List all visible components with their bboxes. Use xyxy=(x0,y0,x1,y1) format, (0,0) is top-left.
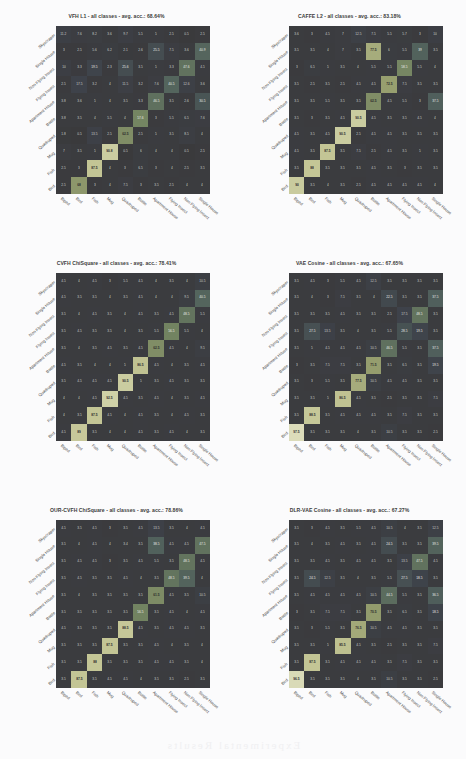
matrix-cell: 92.5 xyxy=(102,391,117,408)
y-axis-labels: SkyscraperSingle HouseNon Flying InsectF… xyxy=(0,520,56,688)
matrix-cell: 4.5 xyxy=(195,357,210,374)
matrix-cell-value: 3.5 xyxy=(77,364,81,367)
matrix-cell-value: 4.5 xyxy=(61,280,65,283)
matrix-cell: 4 xyxy=(133,570,148,587)
matrix-cell: 3.5 xyxy=(397,537,412,554)
matrix-cell: 4.5 xyxy=(56,290,71,307)
matrix-cell: 3.5 xyxy=(366,570,381,587)
matrix-cell: 4 xyxy=(102,357,117,374)
matrix-cell: 3.5 xyxy=(412,340,427,357)
matrix-cell-value: 3.5 xyxy=(418,414,422,417)
matrix-cell-value: 7.5 xyxy=(433,644,437,647)
matrix-cell: 3.5 xyxy=(428,144,443,161)
matrix-cell: 2.5 xyxy=(133,127,148,144)
matrix-cell: 3.5 xyxy=(71,604,86,621)
matrix-cell-value: 3 xyxy=(109,280,111,283)
matrix-cell: 86.5 xyxy=(133,357,148,374)
matrix-cell-value: 3.5 xyxy=(154,313,158,316)
confusion-matrix: 3.534.53.55.54.510.543.512.53.543.54.53.… xyxy=(289,520,443,688)
matrix-cell-value: 46.5 xyxy=(386,347,392,350)
matrix-cell-value: 5 xyxy=(155,33,157,36)
matrix-cell-value: 3.5 xyxy=(310,364,314,367)
matrix-cell: 3.5 xyxy=(335,554,350,571)
matrix-cell: 3.5 xyxy=(428,160,443,177)
matrix-cell: 2.5 xyxy=(164,26,179,43)
matrix-cell: 3.5 xyxy=(381,110,396,127)
matrix-cell-value: 3.5 xyxy=(77,527,81,530)
matrix-cell-value: 18.5 xyxy=(417,577,423,580)
matrix-cell: 3.5 xyxy=(412,537,427,554)
matrix-cell-value: 3.6 xyxy=(77,100,81,103)
matrix-cell-value: 7.5 xyxy=(341,611,345,614)
matrix-cell: 5.5 xyxy=(381,323,396,340)
matrix-cell-value: 3.5 xyxy=(77,628,81,631)
matrix-cell-value: 86.5 xyxy=(340,397,346,400)
matrix-cell-value: 4.5 xyxy=(185,414,189,417)
matrix-cell: 4.5 xyxy=(366,76,381,93)
matrix-cell: 87.5 xyxy=(320,144,335,161)
matrix-cell-value: 3.5 xyxy=(92,330,96,333)
matrix-cell-value: 5.5 xyxy=(387,66,391,69)
matrix-cell: 2.5 xyxy=(179,160,194,177)
matrix-cell: 7.5 xyxy=(397,654,412,671)
matrix-cell-value: 3.5 xyxy=(138,661,142,664)
matrix-cell-value: 3 xyxy=(311,628,313,631)
matrix-cell-value: 7.5 xyxy=(325,364,329,367)
matrix-cell-value: 4.5 xyxy=(200,364,204,367)
matrix-cell-value: 4.5 xyxy=(200,66,204,69)
matrix-cell: 3.5 xyxy=(164,671,179,688)
matrix-cell: 4.5 xyxy=(148,391,163,408)
matrix-cell-value: 30.5 xyxy=(199,100,205,103)
matrix-cell: 90.8 xyxy=(102,144,117,161)
matrix-cell: 4 xyxy=(71,273,86,290)
matrix-cell: 7.5 xyxy=(366,26,381,43)
matrix-cell-value: 3.5 xyxy=(108,594,112,597)
matrix-cell: 4.5 xyxy=(56,273,71,290)
matrix-cell: 10.5 xyxy=(366,621,381,638)
matrix-cell-value: 3.5 xyxy=(310,184,314,187)
matrix-cell: 4 xyxy=(164,290,179,307)
matrix-cell: 5.5 xyxy=(397,43,412,60)
matrix-cell: 2.5 xyxy=(381,307,396,324)
matrix-cell-value: 3.5 xyxy=(154,414,158,417)
matrix-cell-value: 7.5 xyxy=(341,297,345,300)
matrix-cell-value: 3.6 xyxy=(108,33,112,36)
matrix-cell-value: 4.5 xyxy=(387,381,391,384)
matrix-cell: 2.5 xyxy=(195,26,210,43)
matrix-cell: 4.5 xyxy=(118,570,133,587)
matrix-cell-value: 7.5 xyxy=(402,414,406,417)
matrix-cell-value: 7.6 xyxy=(154,83,158,86)
matrix-cell-value: 4 xyxy=(78,397,80,400)
matrix-cell: 9.7 xyxy=(118,26,133,43)
matrix-cell-value: 4.5 xyxy=(387,134,391,137)
matrix-cell-value: 24.5 xyxy=(309,577,315,580)
matrix-cell: 96.5 xyxy=(289,671,304,688)
matrix-cell: 58.5 xyxy=(397,60,412,77)
matrix-cell-value: 3.5 xyxy=(294,83,298,86)
matrix-cell: 13.5 xyxy=(397,554,412,571)
matrix-cell: 4.5 xyxy=(56,357,71,374)
x-axis-tick-label: Fish xyxy=(90,690,99,699)
matrix-cell-value: 4.5 xyxy=(185,544,189,547)
matrix-cell-value: 5 xyxy=(155,66,157,69)
matrix-cell-value: 10.5 xyxy=(371,381,377,384)
matrix-cell: 4 xyxy=(102,537,117,554)
matrix-cell-value: 4.5 xyxy=(387,150,391,153)
matrix-cell: 3.5 xyxy=(289,290,304,307)
matrix-cell-value: 4 xyxy=(124,313,126,316)
matrix-cell: 12.5 xyxy=(351,26,366,43)
matrix-cell: 3.5 xyxy=(351,537,366,554)
matrix-cell-value: 3.5 xyxy=(418,544,422,547)
matrix-cell: 3.5 xyxy=(133,638,148,655)
matrix-cell-value: 5.5 xyxy=(169,117,173,120)
matrix-cell-value: 7.5 xyxy=(341,364,345,367)
y-axis-tick-label: Skyscraper xyxy=(37,33,56,50)
matrix-cell: 10.5 xyxy=(195,587,210,604)
matrix-cell-value: 13.5 xyxy=(324,330,330,333)
matrix-cell-value: 3.5 xyxy=(341,150,345,153)
matrix-cell: 3.5 xyxy=(56,587,71,604)
matrix-cell-value: 3.5 xyxy=(77,661,81,664)
confusion-matrix: 4.53.54.533.54.513.53.544.53.544.543.43.… xyxy=(56,520,210,688)
matrix-cell: 13.5 xyxy=(87,127,102,144)
matrix-cell: 4 xyxy=(71,391,86,408)
